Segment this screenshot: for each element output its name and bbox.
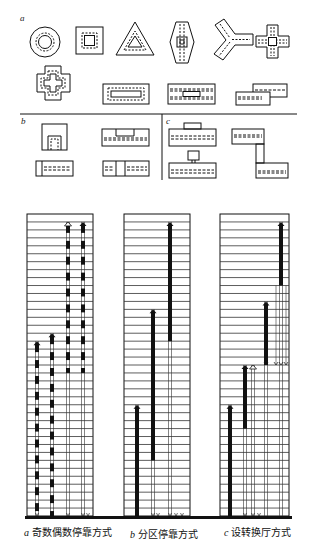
slab-with-end-core-plan	[36, 161, 73, 176]
circular-core-plan	[30, 27, 60, 57]
panel-a-label: a	[20, 13, 25, 23]
caption-b-text: 分区停靠方式	[138, 529, 198, 540]
panel-c-plans	[169, 123, 288, 178]
caption-c: c设转换厅方式	[224, 524, 291, 539]
slab-with-detached-core-plan	[169, 151, 216, 178]
caption-b: b分区停靠方式	[130, 526, 198, 541]
elevator-diagrams	[27, 214, 289, 516]
caption-b-letter: b	[130, 529, 135, 540]
y-shaped-plan	[214, 19, 253, 60]
caption-c-text: 设转换厅方式	[231, 527, 291, 538]
caption-a-text: 奇数偶数停靠方式	[32, 527, 112, 538]
slab-with-attached-core-plan	[169, 123, 216, 146]
rectangular-central-core-plan	[103, 84, 149, 104]
building-a	[27, 214, 93, 516]
panel-a-plans	[30, 19, 289, 105]
building-b	[124, 214, 190, 516]
cross-shaped-plan	[256, 25, 289, 58]
L-connected-slabs-plan	[232, 129, 288, 178]
square-core-plan	[76, 27, 103, 54]
panel-b-label: b	[21, 116, 26, 126]
slab-with-middle-core-plan	[103, 161, 149, 176]
caption-a-letter: a	[24, 527, 29, 538]
panel-b-plans	[36, 124, 149, 176]
slab-with-side-core-plan	[102, 129, 149, 146]
panel-c-label: c	[166, 116, 170, 126]
offset-slab-plan	[236, 84, 287, 105]
rectangular-double-corridor-plan	[168, 84, 215, 104]
caption-a: a奇数偶数停靠方式	[24, 524, 112, 539]
figure-canvas	[0, 0, 311, 553]
triangular-core-plan	[116, 22, 154, 55]
building-c	[220, 214, 289, 516]
stepped-cross-plan	[37, 66, 70, 100]
caption-c-letter: c	[224, 527, 228, 538]
hexagonal-core-plan	[170, 22, 194, 63]
square-end-core-plan	[42, 124, 67, 150]
